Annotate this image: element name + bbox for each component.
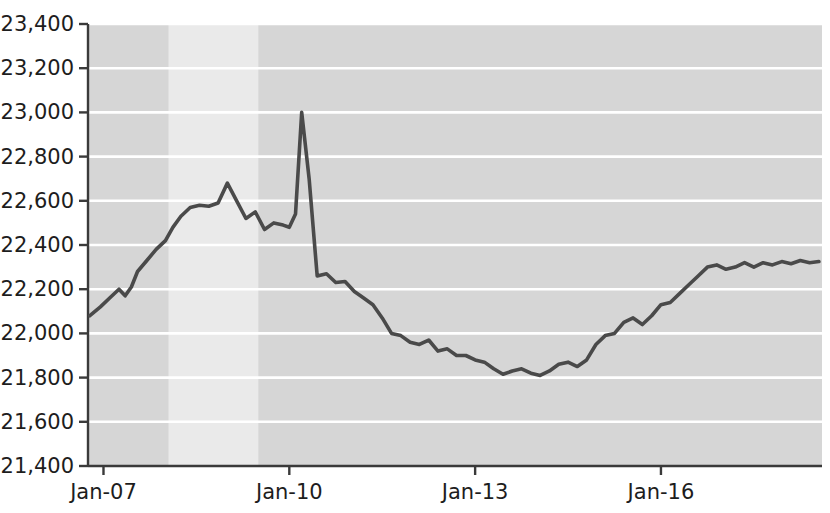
y-tick-label: 21,600 [1, 410, 74, 434]
y-tick-label: 23,200 [1, 56, 74, 80]
line-chart: 21,40021,60021,80022,00022,20022,40022,6… [0, 0, 830, 513]
x-tick-label: Jan-07 [68, 480, 137, 504]
x-tick-label: Jan-10 [254, 480, 323, 504]
y-tick-label: 23,400 [1, 12, 74, 36]
y-axis-ticks [79, 24, 88, 466]
x-axis-tick-labels: Jan-07Jan-10Jan-13Jan-16 [68, 480, 694, 504]
y-tick-label: 22,200 [1, 277, 74, 301]
y-tick-label: 21,400 [1, 454, 74, 478]
y-tick-label: 22,400 [1, 233, 74, 257]
y-tick-label: 23,000 [1, 100, 74, 124]
x-axis-ticks [103, 466, 660, 475]
plot-background-group [88, 24, 822, 466]
y-axis-tick-labels: 21,40021,60021,80022,00022,20022,40022,6… [1, 12, 74, 478]
y-tick-label: 21,800 [1, 366, 74, 390]
y-tick-label: 22,800 [1, 145, 74, 169]
x-tick-label: Jan-13 [440, 480, 509, 504]
y-tick-label: 22,600 [1, 189, 74, 213]
x-tick-label: Jan-16 [626, 480, 695, 504]
chart-container: 21,40021,60021,80022,00022,20022,40022,6… [0, 0, 830, 513]
y-tick-label: 22,000 [1, 321, 74, 345]
